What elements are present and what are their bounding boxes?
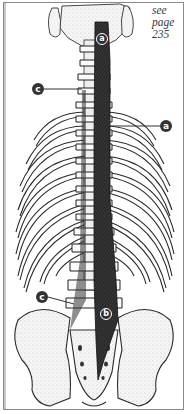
label-a-right: a	[160, 120, 172, 132]
spine-illustration	[0, 0, 188, 414]
ref-line-number: 235	[152, 28, 186, 40]
erector-spinae-muscle	[94, 22, 118, 380]
pelvis	[15, 309, 173, 406]
ref-line-page: page	[152, 16, 186, 28]
label-c-top: c	[32, 83, 44, 95]
ref-line-see: see	[152, 4, 186, 16]
label-b: b	[100, 308, 112, 320]
page-reference: see page 235	[152, 4, 186, 40]
label-a-top: a	[96, 33, 108, 45]
label-c-bottom: c	[36, 291, 48, 303]
